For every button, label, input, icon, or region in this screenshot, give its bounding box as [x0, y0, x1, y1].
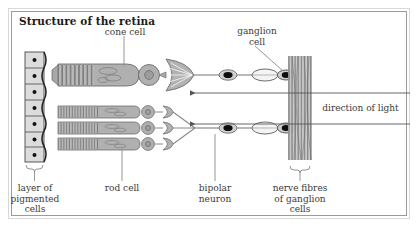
layer-of-pigmented-cells [25, 52, 46, 181]
label-bipolar-neuron: bipolar neuron [185, 183, 245, 204]
retina-diagram-figure: Structure of the retina [0, 0, 419, 235]
label-direction-of-light: direction of light [313, 103, 408, 114]
label-ganglion-cell-line1: ganglion [222, 26, 292, 37]
label-bipolar-line1: bipolar [185, 183, 245, 194]
nerve-fibre-bundle [288, 56, 312, 181]
bipolar-neuron [219, 70, 253, 80]
cone-cell [52, 59, 224, 91]
label-layer-of-pigmented-cells: layer of pigmented cells [5, 183, 65, 215]
label-ganglion-cell-line2: cell [222, 37, 292, 48]
rod-cell-group [58, 106, 224, 151]
label-pigmented-line2: pigmented [5, 194, 65, 205]
rod-cell [58, 122, 173, 135]
label-pigmented-line3: cells [5, 204, 65, 215]
label-bipolar-line2: neuron [185, 194, 245, 205]
label-rod-cell: rod cell [92, 183, 152, 194]
rod-cell [58, 106, 173, 119]
label-nerve-fibres: nerve fibres of ganglion cells [262, 183, 338, 215]
rod-cell [58, 138, 173, 151]
label-nerve-line2: of ganglion [262, 194, 338, 205]
label-ganglion-cell: ganglion cell [222, 26, 292, 47]
label-nerve-line3: cells [262, 204, 338, 215]
label-nerve-line1: nerve fibres [262, 183, 338, 194]
leader-ganglion-cell [255, 46, 283, 71]
label-pigmented-line1: layer of [5, 183, 65, 194]
label-cone-cell: cone cell [90, 27, 160, 38]
